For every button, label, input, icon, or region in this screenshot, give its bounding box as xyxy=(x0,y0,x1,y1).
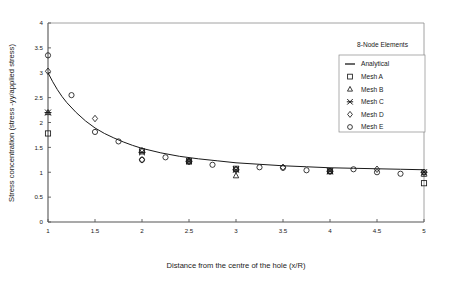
y-tick-label: 1 xyxy=(40,169,44,176)
x-axis-title: Distance from the centre of the hole (x/… xyxy=(167,261,306,270)
x-tick-label: 4 xyxy=(328,227,332,234)
chart-container: 11.522.533.544.55 00.511.522.533.54 Dist… xyxy=(0,0,451,288)
y-tick-label: 1.5 xyxy=(34,144,43,151)
x-tick-label: 2.5 xyxy=(185,227,194,234)
y-tick-label: 2.5 xyxy=(34,94,43,101)
legend-label: Mesh D xyxy=(361,111,384,118)
y-tick-label: 0 xyxy=(40,218,44,225)
chart-legend: AnalyticalMesh AMesh BMesh CMesh DMesh E xyxy=(339,55,425,132)
x-tick-label: 3.5 xyxy=(279,227,288,234)
legend-label: Mesh E xyxy=(361,123,384,130)
legend-label: Analytical xyxy=(361,60,390,68)
legend-label: Mesh B xyxy=(361,86,384,93)
y-tick-label: 3.5 xyxy=(34,44,43,51)
y-axis-title: Stress concentration (stress -yy/applied… xyxy=(7,44,16,202)
x-tick-label: 4.5 xyxy=(373,227,382,234)
x-tick-label: 5 xyxy=(422,227,426,234)
scatter-chart: 11.522.533.544.55 00.511.522.533.54 Dist… xyxy=(0,0,451,288)
y-tick-label: 2 xyxy=(40,119,44,126)
x-tick-label: 1 xyxy=(46,227,50,234)
x-tick-label: 2 xyxy=(140,227,144,234)
x-tick-label: 1.5 xyxy=(91,227,100,234)
chart-annotation: 8-Node Elements xyxy=(357,41,409,48)
legend-label: Mesh A xyxy=(361,73,384,80)
legend-label: Mesh C xyxy=(361,98,384,105)
y-tick-label: 0.5 xyxy=(34,193,43,200)
y-tick-label: 4 xyxy=(40,19,44,26)
x-tick-label: 3 xyxy=(234,227,238,234)
y-tick-label: 3 xyxy=(40,69,44,76)
